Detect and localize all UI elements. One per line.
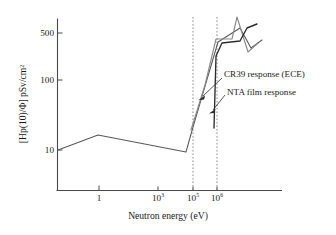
y-tick-label-10: 10: [45, 145, 55, 155]
axes-group: [57, 19, 283, 191]
y-tick-label-100: 100: [40, 75, 54, 85]
x-tick-label-1e5: 105: [187, 192, 199, 203]
x-tick-label-1: 1: [97, 193, 102, 203]
y-tick-marks: [58, 33, 63, 150]
x-tick-label-1e6: 106: [211, 192, 223, 203]
y-tick-label-500: 500: [40, 28, 54, 38]
reference-lines: [193, 16, 217, 190]
nta-annotation-group: NTA film response: [209, 87, 296, 114]
chart-canvas: 500 100 10 1 103 105 106 Neutron energy …: [0, 0, 336, 235]
x-axis-title: Neutron energy (eV): [128, 210, 208, 222]
x-tick-label-1e3: 103: [152, 192, 164, 203]
y-tick-labels: 500 100 10: [40, 28, 54, 155]
x-tick-marks: [99, 186, 217, 191]
cr39-annotation-label: CR39 response (ECE): [224, 69, 305, 79]
chart-figure: 500 100 10 1 103 105 106 Neutron energy …: [0, 0, 336, 235]
y-axis-title: [Hp(10)/Φ] pSv/cm²: [17, 65, 29, 143]
x-tick-labels: 1 103 105 106: [97, 192, 223, 203]
nta-annotation-label: NTA film response: [227, 87, 296, 97]
